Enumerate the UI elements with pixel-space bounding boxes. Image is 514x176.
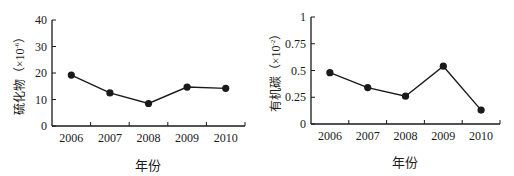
x-tick-label: 2009 bbox=[175, 131, 199, 145]
y-tick-label: 0 bbox=[300, 117, 306, 131]
sulfide-chart: 010203040 20062007200820092010 年份 硫化物（×1… bbox=[12, 13, 245, 173]
x-tick-label: 2010 bbox=[214, 131, 238, 145]
x-tick-label: 2008 bbox=[394, 129, 418, 143]
x-tick-label: 2006 bbox=[59, 131, 83, 145]
y-axis: 010203040 bbox=[35, 13, 56, 133]
figure: 010203040 20062007200820092010 年份 硫化物（×1… bbox=[0, 0, 514, 176]
data-point-marker bbox=[402, 93, 409, 100]
data-point-marker bbox=[106, 89, 113, 96]
x-tick-label: 2006 bbox=[318, 129, 342, 143]
x-axis-label: 年份 bbox=[392, 155, 418, 170]
y-tick-label: 0 bbox=[41, 119, 47, 133]
y-tick-label: 40 bbox=[35, 13, 47, 27]
y-axis-label: 硫化物（×10-6） bbox=[12, 31, 27, 116]
y-axis-label: 有机碳（×10-2） bbox=[269, 28, 283, 113]
y-tick-label: 0.5 bbox=[291, 64, 306, 78]
x-axis-label: 年份 bbox=[135, 158, 161, 173]
data-point-marker bbox=[440, 63, 447, 70]
data-point-marker bbox=[184, 83, 191, 90]
x-tick-label: 2007 bbox=[356, 129, 380, 143]
y-tick-label: 20 bbox=[35, 66, 47, 80]
data-point-marker bbox=[145, 100, 152, 107]
y-tick-label: 10 bbox=[35, 93, 47, 107]
charts-canvas: 010203040 20062007200820092010 年份 硫化物（×1… bbox=[0, 0, 514, 176]
y-tick-label: 1 bbox=[300, 10, 306, 24]
x-axis: 20062007200820092010 bbox=[52, 122, 245, 145]
data-point-marker bbox=[222, 85, 229, 92]
organic-carbon-chart: 00.250.50.751 20062007200820092010 年份 有机… bbox=[269, 10, 500, 170]
x-axis: 20062007200820092010 bbox=[311, 120, 500, 143]
y-tick-label: 30 bbox=[35, 40, 47, 54]
x-tick-label: 2010 bbox=[469, 129, 493, 143]
data-point-marker bbox=[326, 69, 333, 76]
data-series bbox=[326, 63, 484, 114]
data-point-marker bbox=[364, 84, 371, 91]
data-point-marker bbox=[68, 72, 75, 79]
x-tick-label: 2008 bbox=[137, 131, 161, 145]
y-axis: 00.250.50.751 bbox=[285, 10, 315, 131]
series-line bbox=[330, 66, 481, 110]
data-series bbox=[68, 72, 230, 108]
y-tick-label: 0.75 bbox=[285, 37, 306, 51]
data-point-marker bbox=[478, 106, 485, 113]
series-line bbox=[71, 75, 225, 103]
x-tick-label: 2007 bbox=[98, 131, 122, 145]
x-tick-label: 2009 bbox=[431, 129, 455, 143]
y-tick-label: 0.25 bbox=[285, 90, 306, 104]
